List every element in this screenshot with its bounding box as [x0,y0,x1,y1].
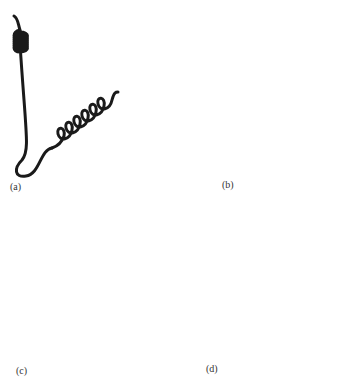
diagram-canvas [0,0,340,386]
helix-vertical [14,16,52,176]
panel-label-b: (b) [222,179,234,190]
panel-a-helix-loop-helix [14,16,118,176]
panel-label-c: (c) [16,365,27,376]
panel-label-a: (a) [10,181,21,192]
helix-horizontal [52,92,118,148]
panel-label-d: (d) [206,363,218,374]
